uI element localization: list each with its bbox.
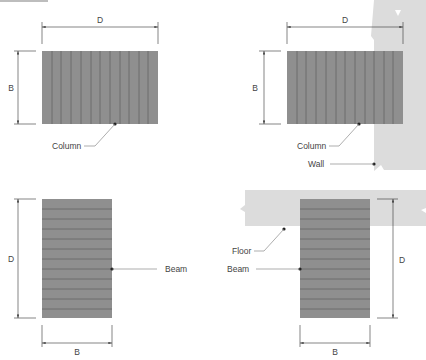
column-label: Column [297, 141, 327, 151]
dimension-b-label: B [74, 347, 80, 357]
dimension-b-label: B [8, 83, 14, 93]
column-leader [329, 124, 359, 146]
dimension-d [42, 22, 158, 44]
column-leader [84, 124, 115, 146]
dimension-d-label: D [399, 255, 405, 265]
panel-beam-freestanding: D B Beam [8, 199, 187, 357]
dimension-d-label: D [342, 15, 348, 25]
beam-label: Beam [227, 264, 249, 274]
dimension-b [259, 51, 281, 124]
dimension-b [14, 51, 36, 124]
panel-column-freestanding: D B Column [8, 15, 158, 151]
floor-label: Floor [232, 246, 252, 256]
dimension-b-label: B [332, 347, 338, 357]
dimension-d-label: D [8, 254, 14, 264]
beam-label: Beam [165, 264, 187, 274]
panel-column-against-wall: D B Column Wall [252, 0, 426, 171]
header-bar [0, 0, 48, 2]
dimension-d [14, 199, 36, 318]
member-dimension-diagram: D B Column D B [0, 0, 426, 360]
dimension-d-label: D [97, 15, 103, 25]
beam-section [300, 199, 370, 318]
wall-label: Wall [308, 159, 324, 169]
column-label: Column [52, 141, 82, 151]
floor-leader [254, 229, 284, 251]
dimension-b [300, 325, 370, 347]
dimension-b-label: B [252, 83, 258, 93]
dimension-b [42, 325, 112, 347]
beam-section [42, 199, 112, 318]
panel-beam-under-floor: D B Floor Beam [227, 190, 426, 357]
